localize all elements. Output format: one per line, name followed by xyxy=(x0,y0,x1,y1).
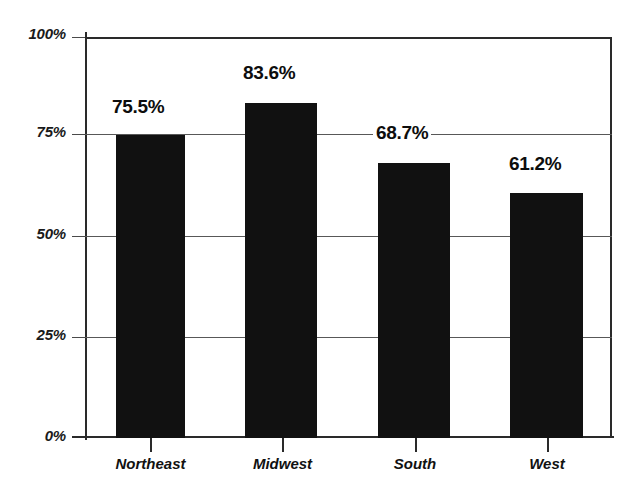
x-tick-mark-2 xyxy=(282,438,284,452)
category-label-south: South xyxy=(349,455,481,472)
category-label-midwest: Midwest xyxy=(217,455,348,472)
y-tick-label-0: 0% xyxy=(45,427,66,444)
x-tick-mark-3 xyxy=(415,438,417,452)
bar-south xyxy=(378,163,450,439)
y-tick-label-100: 100% xyxy=(28,25,66,42)
y-tick-mark-100 xyxy=(72,37,85,38)
y-tick-label-50: 50% xyxy=(37,225,66,242)
y-tick-mark-75 xyxy=(72,134,85,135)
y-tick-label-75: 75% xyxy=(37,123,66,140)
value-label-northeast: 75.5% xyxy=(109,96,167,118)
y-tick-mark-25 xyxy=(72,337,85,338)
x-tick-mark-4 xyxy=(547,438,549,452)
y-tick-mark-50 xyxy=(72,236,85,237)
plot-top-border xyxy=(85,37,612,39)
y-tick-label-25: 25% xyxy=(37,326,66,343)
value-label-south: 68.7% xyxy=(373,122,431,144)
bar-west xyxy=(510,193,583,438)
bar-midwest xyxy=(245,103,317,438)
y-tick-mark-0 xyxy=(72,436,85,438)
value-label-midwest: 83.6% xyxy=(240,62,298,84)
bar-northeast xyxy=(116,135,185,438)
category-label-northeast: Northeast xyxy=(85,455,216,472)
value-label-west: 61.2% xyxy=(506,153,564,175)
bar-chart-figure: 100% 75% 50% 25% 0% 75.5% 83.6% 68.7% 61… xyxy=(0,0,644,497)
category-label-west: West xyxy=(482,455,612,472)
y-axis-labels: 100% 75% 50% 25% 0% xyxy=(0,0,72,497)
plot-right-border xyxy=(610,37,612,438)
x-tick-mark-1 xyxy=(150,438,152,452)
